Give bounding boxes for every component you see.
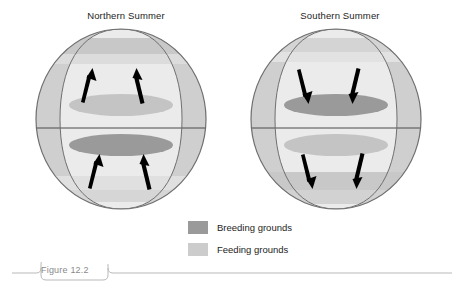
- globe-south-body: [249, 26, 423, 212]
- figure-container: Northern Summer Southern Summer: [0, 0, 464, 285]
- caption-tab-right: [108, 268, 452, 273]
- band-north-feeding: [34, 38, 208, 54]
- band-south-feeding-soft: [34, 176, 208, 190]
- legend-label-feeding: Feeding grounds: [217, 244, 288, 255]
- legend-item-breeding: Breeding grounds: [188, 218, 292, 237]
- band-south-feeding-soft: [249, 190, 423, 204]
- globe-northern-summer: [34, 26, 208, 212]
- figure-caption-label: Figure 12.2: [41, 265, 89, 275]
- legend: Breeding grounds Feeding grounds: [188, 218, 292, 262]
- ellipse-south-breeding-grounds: [69, 134, 173, 156]
- globe-southern-summer: [249, 26, 423, 212]
- legend-item-feeding: Feeding grounds: [188, 240, 292, 259]
- band-north-feeding: [249, 38, 423, 52]
- legend-swatch-feeding-icon: [188, 243, 208, 256]
- ellipse-south-feeding-grounds: [284, 134, 388, 156]
- panel-title-southern: Southern Summer: [270, 10, 410, 21]
- globe-north-body: [34, 26, 208, 212]
- legend-swatch-breeding-icon: [188, 221, 208, 234]
- ellipse-north-breeding-grounds: [284, 94, 388, 116]
- band-south-feeding: [34, 190, 208, 202]
- panel-title-northern: Northern Summer: [56, 10, 196, 21]
- legend-label-breeding: Breeding grounds: [217, 222, 292, 233]
